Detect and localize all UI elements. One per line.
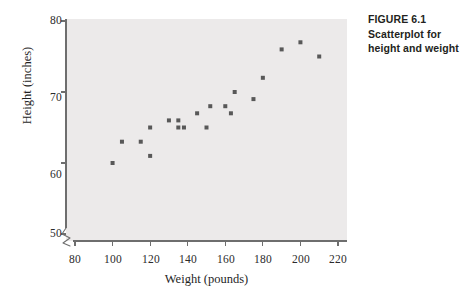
xtick-label-120: 120	[134, 253, 168, 265]
y-axis-title: Height (inches)	[20, 16, 35, 156]
scatter-point	[229, 111, 233, 115]
scatter-point	[317, 55, 321, 59]
scatter-point	[120, 140, 124, 144]
scatter-point	[205, 126, 209, 130]
scatter-point	[261, 76, 265, 80]
scatter-point	[223, 104, 227, 108]
scatter-point	[176, 126, 180, 130]
figure-caption-line-2: Scatterplot for	[368, 27, 465, 42]
xtick-label-100: 100	[96, 253, 130, 265]
xtick-label-160: 160	[209, 253, 243, 265]
figure-caption: FIGURE 6.1 Scatterplot for height and we…	[368, 12, 465, 56]
xtick-label-180: 180	[246, 253, 280, 265]
scatter-point	[195, 111, 199, 115]
plot-area	[66, 19, 347, 241]
figure-caption-line-1: FIGURE 6.1	[368, 12, 465, 27]
scatter-markers-layer	[66, 19, 347, 241]
ytick-label-50: 50	[36, 227, 62, 239]
scatter-point	[182, 126, 186, 130]
scatter-point	[139, 140, 143, 144]
scatter-point	[233, 90, 237, 94]
ytick-label-80: 80	[36, 14, 62, 26]
scatter-point	[208, 104, 212, 108]
xtick-label-80: 80	[58, 253, 92, 265]
scatter-point	[176, 118, 180, 122]
scatter-point	[111, 161, 115, 165]
scatter-point	[280, 47, 284, 51]
scatter-point	[298, 40, 302, 44]
xtick-label-140: 140	[171, 253, 205, 265]
scatter-point	[148, 154, 152, 158]
figure-container: 80 70 60 50 80 100 120 140 160 180 200 2…	[0, 0, 465, 303]
ytick-label-70: 70	[36, 91, 62, 103]
scatter-point	[148, 126, 152, 130]
x-axis-title: Weight (pounds)	[66, 272, 347, 287]
figure-caption-line-3: height and weight	[368, 41, 465, 56]
xtick-label-200: 200	[284, 253, 318, 265]
xtick-label-220: 220	[321, 253, 355, 265]
scatter-point	[167, 118, 171, 122]
scatter-point	[251, 97, 255, 101]
ytick-label-60: 60	[36, 168, 62, 180]
